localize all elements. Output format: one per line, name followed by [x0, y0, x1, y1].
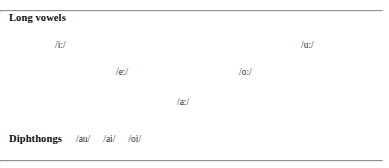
long-vowel-symbol: /u:/ [301, 40, 314, 50]
bottom-divider [0, 160, 383, 162]
diphthong-symbol: /oi/ [128, 134, 141, 144]
diphthongs-heading: Diphthongs [9, 133, 62, 144]
diphthong-symbol: /ai/ [103, 134, 115, 144]
long-vowel-symbol: /i:/ [55, 40, 66, 50]
diphthong-symbol: /au/ [76, 134, 90, 144]
long-vowel-symbol: /o:/ [239, 67, 252, 77]
long-vowels-heading: Long vowels [9, 12, 66, 23]
vowel-chart-figure: Long vowels /i://u://e://o://a:/ Diphtho… [0, 0, 389, 168]
long-vowel-symbol: /a:/ [177, 97, 189, 107]
long-vowel-symbol: /e:/ [116, 67, 128, 77]
diphthongs-list: /au//ai//oi/ [76, 134, 141, 144]
